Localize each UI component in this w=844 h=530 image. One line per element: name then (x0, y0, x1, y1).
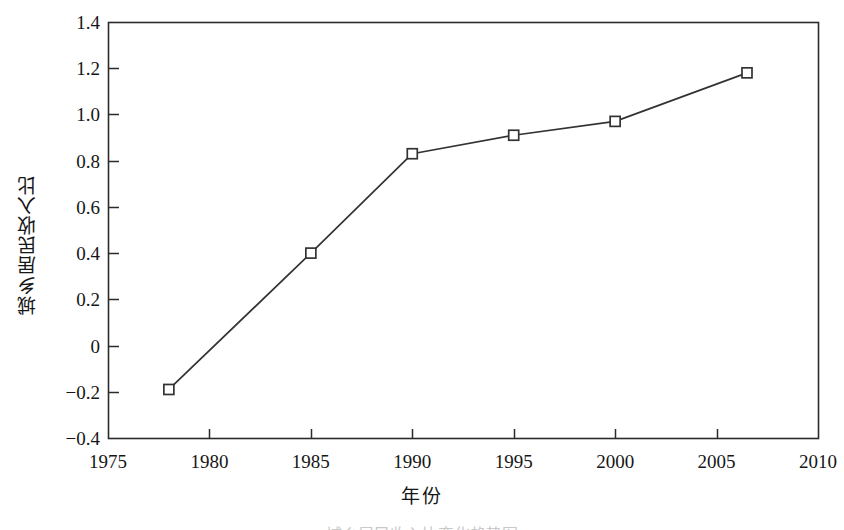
x-axis-tick-label: 2005 (698, 452, 736, 471)
x-axis-tick-label: 1975 (89, 452, 127, 471)
x-axis-tick-label: 1990 (393, 452, 431, 471)
x-axis-tick-label: 1985 (292, 452, 330, 471)
x-axis-tick-labels: 19751980198519901995200020052010 (0, 0, 844, 530)
figure-caption: 城乡居民收入比变化趋势图 (0, 521, 844, 530)
chart-figure: 城乡居民收入比 1.41.21.00.80.60.40.20−0.2−0.4 1… (0, 0, 844, 530)
x-axis-tick-label: 1995 (495, 452, 533, 471)
x-axis-title: 年份 (0, 481, 844, 508)
x-axis-tick-label: 2010 (799, 452, 837, 471)
x-axis-tick-label: 2000 (596, 452, 634, 471)
x-axis-tick-label: 1980 (190, 452, 228, 471)
